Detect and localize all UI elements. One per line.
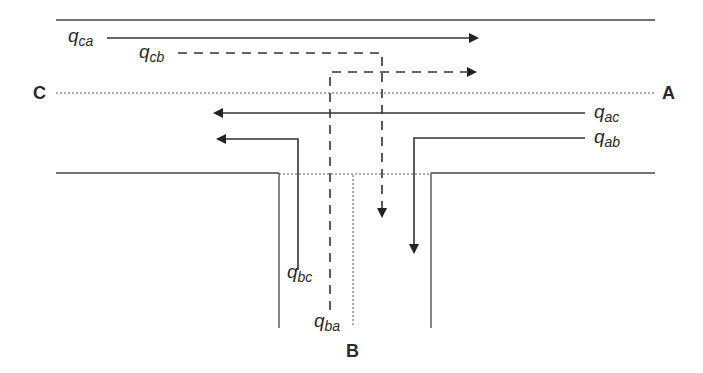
flow-q-cb-arrow (178, 53, 382, 209)
flow-label-q-ca: qca (68, 26, 93, 48)
node-label-c: C (33, 84, 46, 102)
flow-label-q-ba: qba (314, 311, 340, 333)
flow-q-ba-arrow (330, 72, 468, 310)
flow-label-q-ab: qab (594, 127, 620, 149)
diagram-graphics (0, 0, 703, 373)
flow-label-q-bc: qbc (287, 262, 312, 284)
flow-label-q-cb: qcb (139, 42, 164, 64)
t-junction-diagram: C A B qca qcb qac qab qbc qba (0, 0, 703, 373)
flow-q-bc-arrow (225, 139, 298, 270)
flow-q-ab-arrow (414, 138, 585, 245)
node-label-b: B (346, 342, 359, 360)
flow-label-q-ac: qac (594, 102, 619, 124)
node-label-a: A (662, 84, 675, 102)
